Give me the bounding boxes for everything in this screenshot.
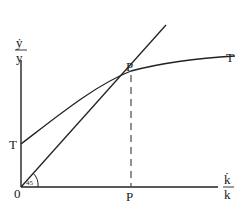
x-foot-label: P — [126, 189, 133, 204]
diagram-canvas: 45 ẏ y k̇ k 0 T T P P — [0, 0, 244, 212]
intersection-label: P — [126, 59, 133, 74]
angle-arc — [33, 173, 38, 187]
t-curve-start-label: T — [9, 137, 17, 152]
y-axis-label-numerator: ẏ — [16, 35, 23, 50]
x-axis-label-numerator: k̇ — [224, 172, 231, 187]
x-axis-label-denominator: k — [224, 187, 231, 202]
origin-label: 0 — [14, 186, 21, 201]
angle-label: 45 — [26, 179, 34, 187]
forty-five-degree-line — [21, 25, 166, 187]
y-axis-label-denominator: y — [16, 50, 23, 65]
t-curve-end-label: T — [226, 50, 234, 65]
